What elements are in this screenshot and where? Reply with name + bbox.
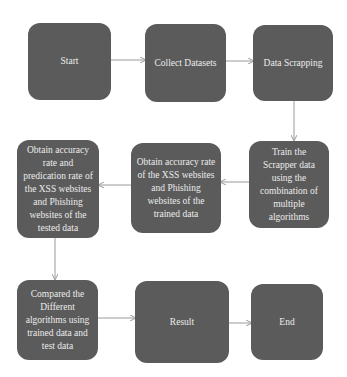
node-data-scrapping-label: Data Scrapping (264, 57, 323, 70)
node-start-label: Start (61, 55, 79, 68)
node-end: End (251, 284, 323, 360)
node-start: Start (28, 23, 111, 100)
node-accuracy-tested-label: Obtain accuracy rate and predication rat… (22, 144, 94, 235)
node-accuracy-trained: Obtain accuracy rate of the XSS websites… (131, 143, 221, 233)
node-collect-datasets-label: Collect Datasets (155, 57, 217, 70)
node-result-label: Result (170, 316, 194, 329)
flowchart: Start Collect Datasets Data Scrapping Tr… (0, 0, 347, 377)
node-train-scrapper: Train the Scrapper data using the combin… (249, 141, 329, 228)
node-accuracy-trained-label: Obtain accuracy rate of the XSS websites… (136, 156, 216, 221)
node-end-label: End (279, 316, 294, 329)
node-compare-algorithms: Compared the Different algorithms using … (17, 280, 98, 360)
node-result: Result (135, 281, 229, 363)
node-compare-algorithms-label: Compared the Different algorithms using … (22, 288, 93, 353)
node-train-scrapper-label: Train the Scrapper data using the combin… (254, 146, 324, 224)
node-collect-datasets: Collect Datasets (145, 24, 226, 102)
node-data-scrapping: Data Scrapping (253, 25, 333, 101)
node-accuracy-tested: Obtain accuracy rate and predication rat… (17, 140, 99, 238)
